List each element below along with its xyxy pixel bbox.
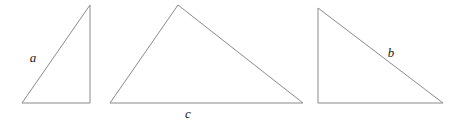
triangles-svg: a c b (0, 0, 465, 124)
triangle-c-outline (110, 5, 303, 103)
side-label-a: a (30, 50, 37, 65)
triangle-a-group: a (22, 5, 90, 103)
triangle-b-outline (318, 8, 443, 103)
triangle-c-group: c (110, 5, 303, 121)
side-label-b: b (388, 45, 395, 60)
side-label-c: c (185, 106, 191, 121)
triangle-b-group: b (318, 8, 443, 103)
geometry-figure-canvas: a c b (0, 0, 465, 124)
